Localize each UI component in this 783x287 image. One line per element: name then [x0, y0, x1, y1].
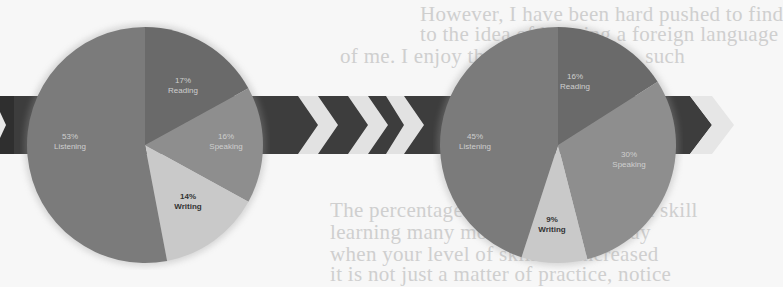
- pie1-label-reading: 17%Reading: [168, 76, 198, 96]
- pie2-label-writing: 9%Writing: [538, 215, 565, 235]
- pie1-label-writing: 14%Writing: [174, 192, 201, 212]
- pie2-label-speaking: 30%Speaking: [612, 150, 645, 170]
- pie2-label-reading: 16%Reading: [560, 72, 590, 92]
- pie1-label-listening: 53%Listening: [54, 132, 86, 152]
- pie1-label-speaking: 16%Speaking: [209, 132, 242, 152]
- pie2-label-listening: 45%Listening: [459, 132, 491, 152]
